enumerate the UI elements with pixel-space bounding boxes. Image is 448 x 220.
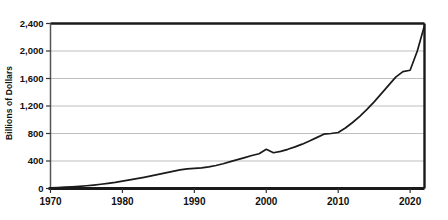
svg-text:400: 400 — [28, 155, 44, 166]
svg-text:0: 0 — [38, 183, 43, 194]
line-chart: 04008001,2001,6002,0002,400 197019801990… — [0, 0, 448, 220]
svg-text:2,000: 2,000 — [20, 45, 44, 56]
svg-text:1970: 1970 — [39, 196, 62, 207]
chart-container: 04008001,2001,6002,0002,400 197019801990… — [0, 0, 448, 220]
svg-text:2000: 2000 — [255, 196, 278, 207]
svg-text:1,600: 1,600 — [20, 73, 44, 84]
svg-text:2010: 2010 — [327, 196, 350, 207]
svg-text:1,200: 1,200 — [20, 100, 44, 111]
y-axis-label: Billions of Dollars — [4, 66, 14, 140]
svg-text:1990: 1990 — [183, 196, 206, 207]
svg-text:1980: 1980 — [111, 196, 134, 207]
svg-text:2,400: 2,400 — [20, 18, 44, 29]
svg-text:800: 800 — [28, 128, 44, 139]
svg-text:2020: 2020 — [399, 196, 422, 207]
